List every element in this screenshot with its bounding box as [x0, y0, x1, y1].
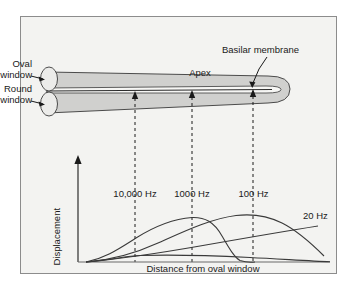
curve-100hz	[86, 215, 324, 262]
frequency-label-100hz: 100 Hz	[231, 189, 276, 200]
x-axis-label: Distance from oval window	[118, 264, 288, 275]
cochlea-diagram	[31, 57, 290, 116]
apex-label: Apex	[182, 68, 218, 79]
oval-window-label-line1: Oval	[0, 59, 32, 70]
frequency-place-lines	[132, 89, 256, 262]
frequency-label-10000hz: 10,000 Hz	[105, 189, 165, 200]
traveling-wave-curves	[86, 215, 330, 262]
frequency-label-1000hz: 1000 Hz	[167, 189, 217, 200]
round-window-label-line2: window	[0, 95, 32, 106]
place-line-10000hz	[132, 91, 138, 262]
y-axis-arrowhead	[74, 155, 81, 164]
place-line-1000hz	[189, 90, 195, 262]
basilar-membrane-label: Basilar membrane	[222, 45, 299, 56]
cochlea-traveling-wave-figure: Oval window Round window Basilar membran…	[0, 0, 357, 294]
y-axis-label: Displacement	[52, 208, 63, 266]
oval-window-label-line2: window	[0, 70, 32, 81]
frequency-label-20hz: 20 Hz	[303, 211, 328, 222]
round-window-label-line1: Round	[0, 84, 32, 95]
